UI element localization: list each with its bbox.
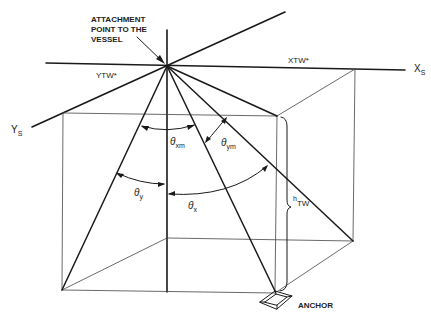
xs-label: XS	[414, 63, 426, 76]
xtw-label: XTW*	[288, 56, 309, 65]
ys-axis	[32, 12, 285, 127]
theta-x-label: θx	[188, 200, 197, 213]
theta-y-arc	[117, 173, 164, 184]
theta-ym-label: θym	[221, 137, 236, 151]
attachment-label-1: ATTACHMENT	[91, 15, 145, 24]
ytw-label: YTW*	[96, 71, 117, 80]
theta-xm-label: θxm	[170, 136, 185, 149]
xs-axis	[46, 63, 405, 70]
theta-xm-arc	[142, 125, 194, 130]
theta-x-arc	[169, 166, 267, 194]
theta-y-label: θy	[134, 187, 143, 201]
attachment-label-3: VESSEL	[91, 35, 123, 44]
line-to-top-right	[167, 66, 277, 116]
line-to-back-right	[167, 66, 353, 241]
line-to-anchor	[167, 66, 275, 291]
line-to-front-left	[62, 66, 167, 290]
mooring-geometry-diagram: ATTACHMENT POINT TO THE VESSEL ANCHOR YT…	[0, 0, 431, 319]
anchor-label: ANCHOR	[298, 301, 333, 310]
htw-brace	[280, 117, 291, 291]
attachment-label-2: POINT TO THE	[91, 25, 148, 34]
ys-label: YS	[11, 124, 23, 137]
anchor-block	[260, 291, 292, 309]
